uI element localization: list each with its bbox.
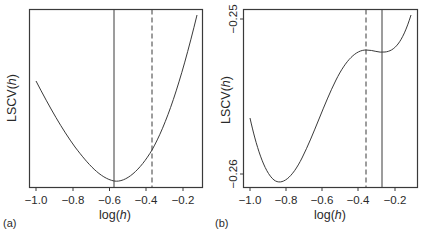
panel-a-label: (a) — [3, 217, 16, 229]
panel-a-xtick-label: −0.2 — [172, 194, 195, 206]
figure: −1.0 −0.8 −0.6 −0.4 −0.2 log(h) LSCV(h) … — [0, 0, 425, 239]
panel-b-label: (b) — [215, 217, 228, 229]
panel-b: −1.0 −0.8 −0.6 −0.4 −0.2 −0.25 −0.26 log… — [215, 4, 418, 229]
panel-a-lscv-curve — [36, 15, 197, 181]
panel-b-ytick-label: −0.26 — [227, 159, 239, 188]
panel-b-lscv-curve — [250, 15, 411, 182]
panel-b-frame — [244, 10, 418, 188]
panel-a-xtick-label: −0.4 — [135, 194, 158, 206]
panel-a-xtick-label: −0.6 — [98, 194, 121, 206]
panel-b-xtick-label: −1.0 — [239, 194, 262, 206]
panel-a-xlabel: log(h) — [99, 208, 131, 222]
panel-b-ytick-label: −0.25 — [227, 4, 239, 33]
panel-b-xtick-label: −0.2 — [384, 194, 407, 206]
panel-a-ylabel: LSCV(h) — [5, 74, 19, 122]
panel-b-xtick-label: −0.8 — [275, 194, 298, 206]
panel-b-xtick-label: −0.6 — [311, 194, 334, 206]
panel-b-xlabel: log(h) — [314, 208, 346, 222]
panel-a-xtick-label: −1.0 — [25, 194, 48, 206]
panel-b-ylabel: LSCV(h) — [219, 76, 233, 124]
panel-b-xtick-label: −0.4 — [347, 194, 370, 206]
panel-a: −1.0 −0.8 −0.6 −0.4 −0.2 log(h) LSCV(h) … — [3, 10, 203, 230]
panel-a-frame — [30, 10, 203, 188]
panel-a-xtick-label: −0.8 — [62, 194, 85, 206]
